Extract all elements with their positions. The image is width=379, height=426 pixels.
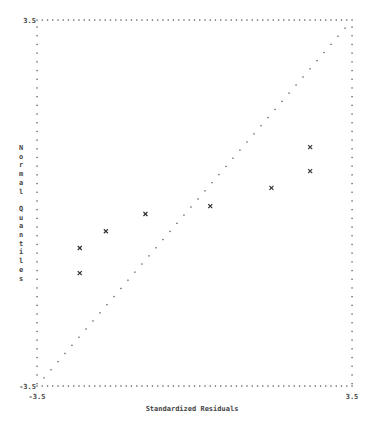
x-axis-title: Standardized Residuals bbox=[146, 405, 239, 413]
svg-text:a: a bbox=[19, 179, 23, 187]
svg-text:a: a bbox=[19, 222, 23, 230]
data-point-marker bbox=[308, 169, 312, 173]
svg-text:t: t bbox=[19, 240, 23, 248]
svg-text:m: m bbox=[19, 170, 23, 178]
data-points bbox=[78, 145, 312, 275]
data-point-marker bbox=[208, 204, 212, 208]
svg-text:i: i bbox=[19, 248, 23, 256]
data-point-marker bbox=[269, 186, 273, 190]
svg-text:l: l bbox=[19, 188, 23, 196]
svg-text:s: s bbox=[19, 275, 23, 283]
data-point-marker bbox=[308, 145, 312, 149]
x-min-label: -3.5 bbox=[29, 393, 46, 401]
y-max-label: 3.5 bbox=[23, 17, 36, 25]
y-min-label: -3.5 bbox=[19, 383, 36, 391]
svg-text:r: r bbox=[19, 161, 23, 169]
y-axis-title: NormalQuantiles bbox=[19, 144, 23, 283]
data-point-marker bbox=[78, 271, 82, 275]
svg-text:N: N bbox=[19, 144, 23, 152]
svg-text:n: n bbox=[19, 231, 23, 239]
svg-text:o: o bbox=[19, 153, 23, 161]
reference-line bbox=[43, 28, 345, 379]
qq-plot: 3.5 -3.5 -3.5 3.5 Standardized Residuals… bbox=[0, 0, 379, 426]
svg-text:l: l bbox=[19, 257, 23, 265]
data-point-marker bbox=[78, 246, 82, 250]
plot-frame bbox=[36, 19, 352, 386]
data-point-marker bbox=[143, 212, 147, 216]
svg-text:u: u bbox=[19, 214, 23, 222]
x-max-label: 3.5 bbox=[346, 393, 359, 401]
svg-text:Q: Q bbox=[19, 205, 23, 213]
svg-text:e: e bbox=[19, 266, 23, 274]
data-point-marker bbox=[104, 229, 108, 233]
